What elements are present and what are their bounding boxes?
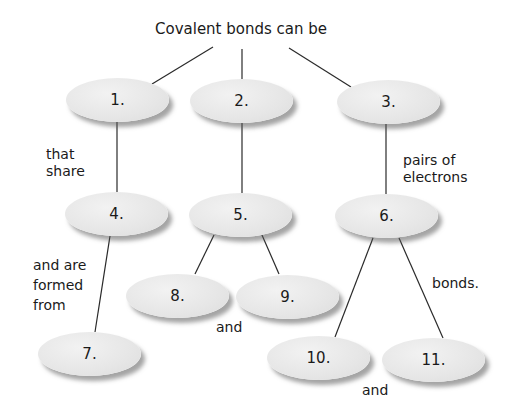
connector-5-to-9	[262, 235, 279, 274]
node-10: 10.	[267, 336, 370, 380]
linking-phrase-and-10-11: and	[362, 382, 388, 399]
node-9: 9.	[236, 275, 339, 319]
node-8: 8.	[126, 274, 229, 318]
node-2: 2.	[190, 79, 293, 123]
linking-phrase-line: pairs of	[403, 152, 467, 169]
node-7: 7.	[38, 332, 141, 376]
linking-phrase-bonds: bonds.	[432, 275, 479, 292]
node-1: 1.	[66, 78, 169, 122]
linking-phrase-that-share: that share	[46, 146, 85, 180]
node-4: 4.	[65, 192, 168, 236]
linking-phrase-line: and are	[33, 255, 86, 275]
linking-phrase-line: formed	[33, 275, 86, 295]
node-label: 2.	[234, 92, 248, 110]
node-label: 9.	[280, 288, 294, 306]
node-6: 6.	[335, 194, 438, 238]
node-label: 11.	[422, 351, 446, 369]
node-label: 3.	[381, 93, 395, 111]
node-5: 5.	[189, 193, 292, 237]
linking-phrase-and-are-formed-from: and are formed from	[33, 255, 86, 315]
node-label: 6.	[379, 207, 393, 225]
node-label: 8.	[170, 287, 184, 305]
diagram-title: Covalent bonds can be	[155, 20, 327, 38]
connector-title-to-3	[289, 48, 351, 87]
linking-phrase-line: share	[46, 163, 85, 180]
connector-title-to-1	[152, 47, 213, 84]
linking-phrase-line: from	[33, 295, 86, 315]
node-label: 5.	[233, 206, 247, 224]
node-label: 1.	[110, 91, 124, 109]
connector-4-to-7	[95, 236, 110, 332]
linking-phrase-and-8-9: and	[216, 319, 242, 336]
node-3: 3.	[337, 80, 440, 124]
connector-5-to-8	[195, 235, 214, 274]
linking-phrase-line: that	[46, 146, 85, 163]
connector-6-to-10	[335, 238, 373, 337]
node-label: 10.	[307, 349, 331, 367]
linking-phrase-pairs-of-electrons: pairs of electrons	[403, 152, 467, 186]
node-11: 11.	[382, 338, 485, 382]
node-label: 4.	[109, 205, 123, 223]
node-label: 7.	[82, 345, 96, 363]
linking-phrase-line: electrons	[403, 169, 467, 186]
